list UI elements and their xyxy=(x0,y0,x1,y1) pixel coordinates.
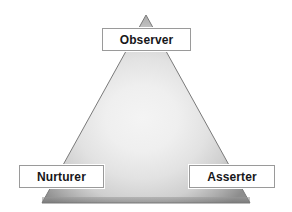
node-label-asserter-text: Asserter xyxy=(207,171,257,183)
node-label-nurturer-text: Nurturer xyxy=(37,171,86,183)
triangle-diagram: Observer Nurturer Asserter xyxy=(0,0,292,212)
node-label-nurturer[interactable]: Nurturer xyxy=(19,165,104,188)
node-label-asserter[interactable]: Asserter xyxy=(189,165,275,188)
triangle-base-shadow xyxy=(42,197,250,203)
node-label-observer-text: Observer xyxy=(120,34,174,46)
node-label-observer[interactable]: Observer xyxy=(102,28,191,51)
